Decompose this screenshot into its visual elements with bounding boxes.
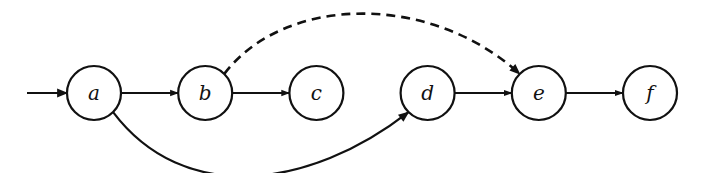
node-e: e <box>512 66 566 120</box>
node-b: b <box>178 66 232 120</box>
node-c-label: c <box>311 81 322 105</box>
state-diagram: abcdef <box>0 0 703 173</box>
node-c: c <box>289 66 343 120</box>
node-d-label: d <box>421 81 434 105</box>
node-a: a <box>67 66 121 120</box>
edge-a-d <box>113 112 408 173</box>
node-e-label: e <box>533 81 545 105</box>
edge-b-e <box>224 14 519 74</box>
node-d: d <box>401 66 455 120</box>
node-b-label: b <box>199 81 212 105</box>
node-f: f <box>623 66 677 120</box>
node-a-label: a <box>88 81 100 105</box>
